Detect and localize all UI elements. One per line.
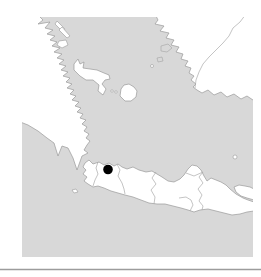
specimen-marker xyxy=(103,165,113,175)
borneo-coastal-inlet-2 xyxy=(157,57,163,62)
island-bawean xyxy=(233,155,237,159)
map-figure xyxy=(0,0,261,277)
islet-bangka-strait-2 xyxy=(115,91,117,93)
map-svg xyxy=(0,0,261,277)
islet-bangka-strait-1 xyxy=(111,90,113,92)
islet-borneo-coast xyxy=(151,65,154,68)
